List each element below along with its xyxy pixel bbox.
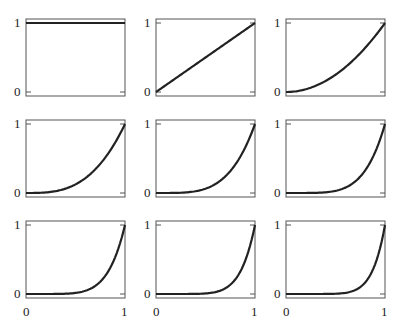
curve-x-pow-5 [286, 124, 385, 193]
curve-x-pow-7 [156, 225, 255, 294]
y-label-bottom: 0 [274, 84, 281, 99]
y-label-top: 1 [144, 217, 151, 232]
y-label-bottom: 0 [144, 286, 151, 301]
x-label-right: 1 [381, 304, 388, 319]
y-label-top: 1 [14, 217, 21, 232]
curve-x-pow-8 [286, 225, 385, 294]
x-label-left: 0 [283, 304, 290, 319]
y-label-top: 1 [14, 15, 21, 30]
small-multiples-chart: 101010101010100110011001 [0, 0, 400, 325]
y-label-bottom: 0 [274, 185, 281, 200]
curve-x-pow-4 [156, 124, 255, 193]
y-label-top: 1 [274, 15, 281, 30]
y-label-top: 1 [144, 116, 151, 131]
curve-x-pow-1 [156, 23, 255, 92]
y-label-bottom: 0 [144, 185, 151, 200]
plot-frame-2 [286, 19, 385, 96]
plot-frame-0 [26, 19, 125, 96]
y-label-top: 1 [274, 217, 281, 232]
x-label-left: 0 [153, 304, 160, 319]
y-label-bottom: 0 [144, 84, 151, 99]
x-label-right: 1 [251, 304, 258, 319]
x-label-right: 1 [121, 304, 128, 319]
y-label-top: 1 [144, 15, 151, 30]
plot-frame-8 [286, 221, 385, 298]
curve-x-pow-2 [286, 23, 385, 92]
y-label-top: 1 [274, 116, 281, 131]
plot-frame-5 [286, 120, 385, 197]
x-label-left: 0 [23, 304, 30, 319]
y-label-bottom: 0 [274, 286, 281, 301]
curve-x-pow-6 [26, 225, 125, 294]
y-label-top: 1 [14, 116, 21, 131]
plot-frame-7 [156, 221, 255, 298]
y-label-bottom: 0 [14, 84, 21, 99]
y-label-bottom: 0 [14, 185, 21, 200]
plot-frame-6 [26, 221, 125, 298]
curve-x-pow-3 [26, 124, 125, 193]
y-label-bottom: 0 [14, 286, 21, 301]
